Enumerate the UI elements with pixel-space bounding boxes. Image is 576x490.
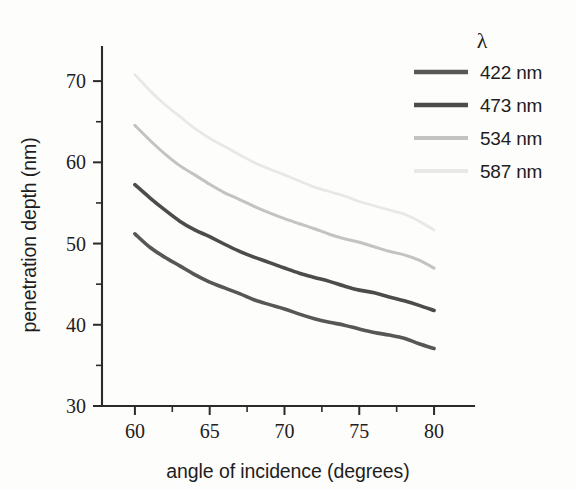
data-curves [135, 75, 434, 349]
legend-label-587-nm: 587 nm [480, 161, 542, 182]
legend-entry: 534 nm [414, 128, 542, 149]
curve-473-nm [135, 185, 434, 311]
x-tick-label: 60 [125, 420, 145, 442]
legend-label-422-nm: 422 nm [480, 62, 542, 83]
x-tick-labels: 6065707580 [125, 420, 444, 442]
y-tick-label: 30 [66, 395, 86, 417]
legend-entry: 473 nm [414, 95, 542, 116]
legend: λ 422 nm473 nm534 nm587 nm [414, 28, 542, 182]
legend-entry: 587 nm [414, 161, 542, 182]
x-tick-label: 80 [424, 420, 444, 442]
legend-title-lambda: λ [477, 28, 488, 53]
legend-label-534-nm: 534 nm [480, 128, 542, 149]
x-tick-label: 65 [200, 420, 220, 442]
penetration-depth-line-chart: 6065707580 3040506070 angle of incidence… [0, 0, 576, 490]
y-tick-labels: 3040506070 [66, 70, 86, 417]
curve-587-nm [135, 75, 434, 230]
legend-entry: 422 nm [414, 62, 542, 83]
y-axis-title: penetration depth (nm) [18, 137, 40, 332]
legend-entries: 422 nm473 nm534 nm587 nm [414, 62, 542, 182]
x-axis-title: angle of incidence (degrees) [166, 460, 409, 482]
figure-root: 6065707580 3040506070 angle of incidence… [0, 0, 576, 490]
y-tick-label: 70 [66, 70, 86, 92]
legend-label-473-nm: 473 nm [480, 95, 542, 116]
x-tick-label: 70 [274, 420, 294, 442]
y-tick-label: 60 [66, 151, 86, 173]
y-tick-label: 40 [66, 314, 86, 336]
axes [93, 47, 474, 415]
curve-534-nm [135, 125, 434, 268]
x-tick-label: 75 [349, 420, 369, 442]
y-tick-label: 50 [66, 233, 86, 255]
